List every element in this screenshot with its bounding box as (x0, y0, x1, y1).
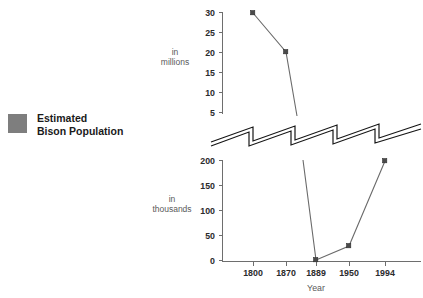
bottom-y-tick-label-50: 50 (205, 231, 215, 241)
top-panel-series-line (253, 13, 297, 116)
axis-break-sawtooth (211, 124, 421, 146)
bottom-y-tick-label-0: 0 (210, 256, 215, 266)
bottom-y-tick-label-150: 150 (200, 181, 215, 191)
top-y-tick-label-30: 30 (205, 8, 215, 18)
x-tick-label-1994: 1994 (375, 268, 395, 278)
axis-break-line-lower (211, 129, 421, 146)
data-point-1889 (314, 258, 318, 262)
chart-plot-area: 30 25 20 15 10 5 (0, 0, 423, 298)
data-point-1950 (347, 244, 351, 248)
top-panel: 30 25 20 15 10 5 (205, 8, 297, 118)
top-y-tick-label-20: 20 (205, 48, 215, 58)
data-point-1994 (383, 159, 387, 163)
chart-container: Estimated Bison Population in millions i… (0, 0, 423, 298)
top-y-tick-label-10: 10 (205, 88, 215, 98)
top-y-tick-label-25: 25 (205, 28, 215, 38)
bottom-panel-x-ticks (254, 262, 386, 266)
x-tick-label-1870: 1870 (276, 268, 296, 278)
x-tick-label-1889: 1889 (306, 268, 326, 278)
data-point-1870 (284, 50, 288, 54)
bottom-y-tick-label-100: 100 (200, 206, 215, 216)
bottom-y-tick-label-200: 200 (200, 156, 215, 166)
x-axis-title: Year (307, 283, 325, 293)
axis-break-line-upper (211, 124, 421, 142)
data-point-1800 (251, 11, 255, 15)
bottom-panel-series-line (303, 160, 385, 260)
top-y-tick-label-5: 5 (210, 108, 215, 118)
bottom-panel: 200 150 100 50 0 1800 1870 1889 1950 199… (200, 156, 421, 293)
x-tick-label-1800: 1800 (243, 268, 263, 278)
top-y-tick-label-15: 15 (205, 68, 215, 78)
x-tick-label-1950: 1950 (339, 268, 359, 278)
bottom-panel-y-ticks (219, 161, 223, 261)
top-panel-y-ticks (219, 13, 223, 113)
